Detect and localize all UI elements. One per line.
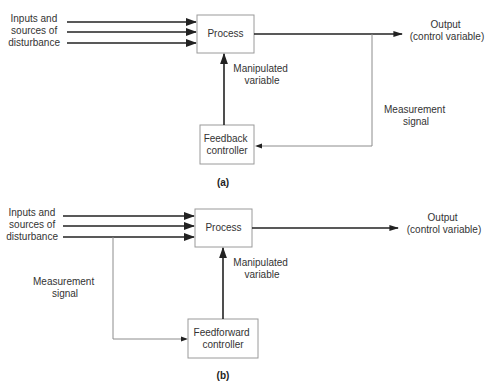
output-label-a: Output (control variable) <box>410 19 484 42</box>
feedback-controller-label: Feedback controller <box>204 133 251 156</box>
process-label-b: Process <box>205 222 241 233</box>
inputs-label-a: Inputs and sources of disturbance <box>8 13 60 48</box>
caption-b: (b) <box>217 370 230 381</box>
process-label-a: Process <box>207 28 243 39</box>
feedforward-diagram: Inputs and sources of disturbance Proces… <box>6 207 481 381</box>
measurement-label-b: Measurement signal <box>33 276 97 299</box>
manipulated-label-b: Manipulated variable <box>233 257 290 280</box>
measurement-line-a <box>257 34 372 146</box>
inputs-label-b: Inputs and sources of disturbance <box>6 207 58 242</box>
feedback-diagram: Inputs and sources of disturbance Proces… <box>8 13 484 188</box>
measurement-label-a: Measurement signal <box>384 104 448 127</box>
measurement-arrowhead-a <box>255 144 262 149</box>
caption-a: (a) <box>217 177 229 188</box>
measurement-arrowhead-b <box>181 337 188 342</box>
output-label-b: Output (control variable) <box>407 212 481 235</box>
manipulated-label-a: Manipulated variable <box>233 63 290 86</box>
measurement-line-b <box>113 237 186 339</box>
control-diagrams: Inputs and sources of disturbance Proces… <box>0 0 497 389</box>
